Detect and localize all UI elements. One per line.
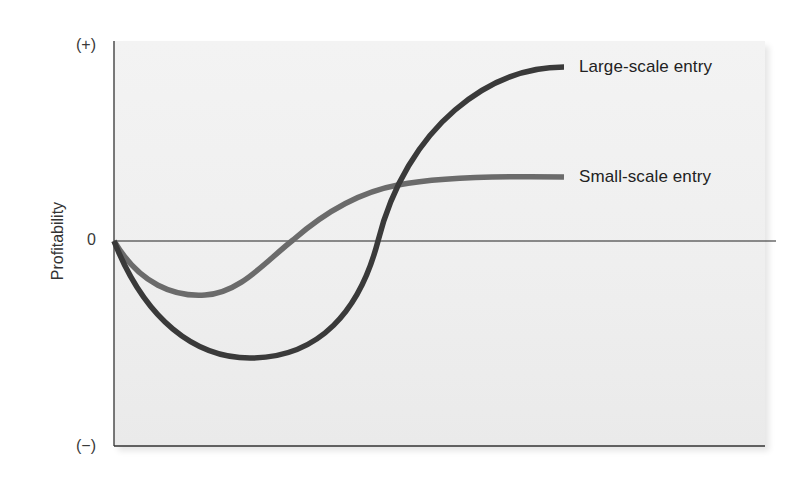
legend-small-scale-entry: Small-scale entry [579,167,711,187]
legend-large-scale-entry: Large-scale entry [579,57,712,77]
y-tick-minus: (−) [76,437,96,455]
y-axis-title: Profitability [49,202,67,280]
y-tick-plus: (+) [76,36,96,54]
series-small-scale-entry [114,177,564,296]
y-tick-zero: 0 [87,231,96,249]
series-large-scale-entry [114,67,564,358]
